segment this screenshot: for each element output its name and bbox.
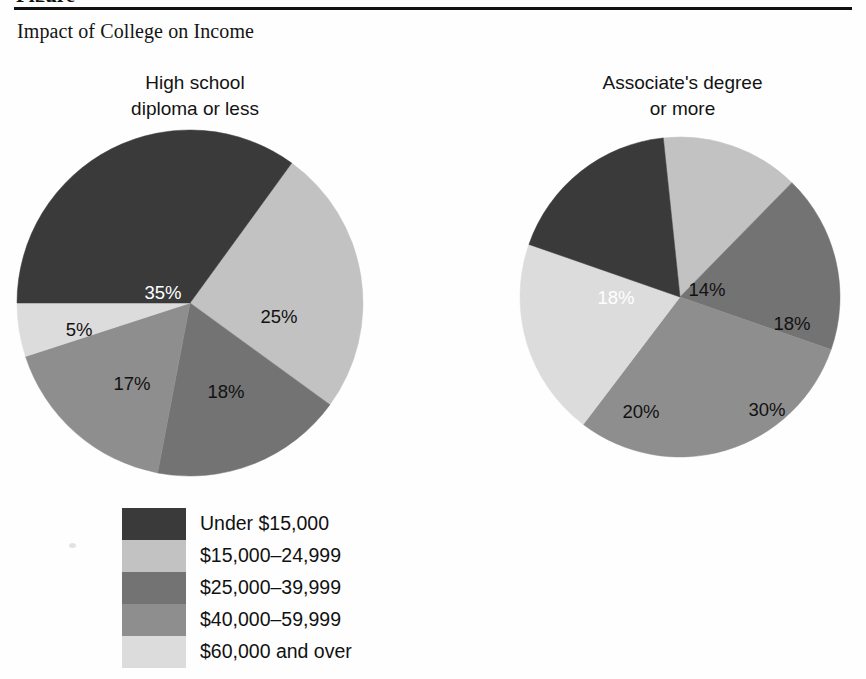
pie-right-label-40-59: 30% [748, 399, 785, 420]
legend-item: Under $15,000 [122, 508, 352, 540]
pie-left-label-over-60k: 5% [66, 319, 93, 340]
pie-right-label-15-24: 14% [688, 279, 725, 300]
pie-right-label-25-39: 18% [773, 313, 810, 334]
legend-swatch-40-59 [122, 604, 186, 636]
legend-swatch-25-39 [122, 572, 186, 604]
pie-left-slice-group [17, 130, 363, 476]
figure-page: Figure Impact of College on Income High … [0, 0, 866, 679]
figure-header-text: Figure [16, 0, 316, 2]
pie-right-label-over-60k: 20% [622, 401, 659, 422]
pie-chart-associates: 14%18%30%20%18% [519, 136, 841, 458]
pie-left-label-40-59: 17% [113, 373, 150, 394]
pie-right-label-under-15k: 18% [597, 287, 634, 308]
pie-left-label-25-39: 18% [207, 381, 244, 402]
legend-label-15-24: $15,000–24,999 [200, 546, 341, 566]
legend-swatch-15-24 [122, 540, 186, 572]
pie-right-slice-group [520, 137, 840, 457]
legend-swatch-over-60k [122, 636, 186, 668]
legend-label-25-39: $25,000–39,999 [200, 578, 341, 598]
chart-title-left: High school diploma or less [80, 70, 310, 122]
legend-item: $60,000 and over [122, 636, 352, 668]
legend-label-over-60k: $60,000 and over [200, 642, 352, 662]
pie-left-label-under-15k: 35% [144, 282, 181, 303]
figure-header-cutoff: Figure [16, 0, 316, 2]
page-title: Impact of College on Income [17, 20, 254, 43]
pie-right-svg: 14%18%30%20%18% [519, 136, 841, 458]
chart-title-right: Associate's degree or more [565, 70, 800, 122]
legend-item: $25,000–39,999 [122, 572, 352, 604]
chart-title-left-line2: diploma or less [80, 96, 310, 122]
chart-title-right-line1: Associate's degree [565, 70, 800, 96]
pie-left-svg: 35%25%18%17%5% [15, 128, 365, 478]
pie-left-label-15-24: 25% [260, 306, 297, 327]
pie-chart-high-school: 35%25%18%17%5% [15, 128, 365, 478]
legend-label-40-59: $40,000–59,999 [200, 610, 341, 630]
legend-label-under-15k: Under $15,000 [200, 514, 329, 534]
chart-title-left-line1: High school [80, 70, 310, 96]
legend-item: $15,000–24,999 [122, 540, 352, 572]
legend: Under $15,000 $15,000–24,999 $25,000–39,… [122, 508, 352, 668]
chart-title-right-line2: or more [565, 96, 800, 122]
legend-swatch-under-15k [122, 508, 186, 540]
scan-artifact-speck [69, 543, 76, 548]
legend-item: $40,000–59,999 [122, 604, 352, 636]
header-divider [14, 7, 852, 10]
